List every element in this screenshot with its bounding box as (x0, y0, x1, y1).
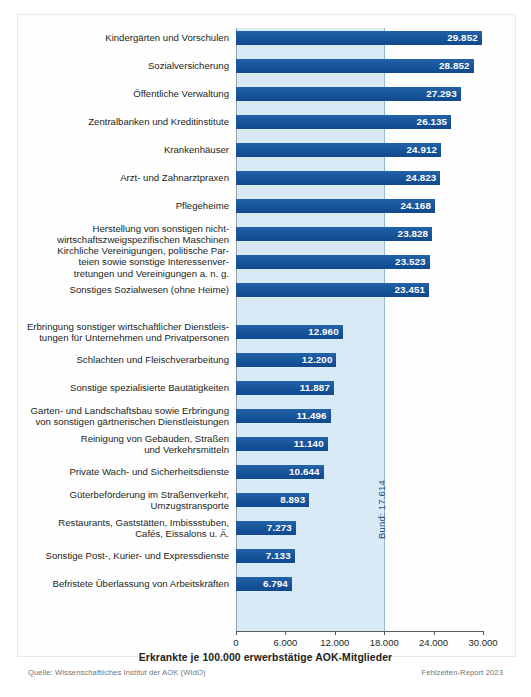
x-tick (483, 631, 484, 635)
bar-value-label: 12.200 (302, 353, 337, 367)
x-tick-label: 6.000 (274, 637, 298, 648)
x-tick (285, 631, 286, 635)
category-label: Zentralbanken und Kreditinstitute (14, 116, 229, 127)
category-label: Herstellung von sonstigen nicht- wirtsch… (14, 223, 229, 246)
category-label: Sozialversicherung (14, 60, 229, 71)
bar-value-label: 29.852 (447, 31, 482, 45)
category-label: Sonstiges Sozialwesen (ohne Heime) (14, 284, 229, 295)
x-tick-label: 30.000 (468, 637, 497, 648)
chart-page: Bund: 17.614 29.852Kindergärten und Vors… (0, 0, 531, 697)
category-label: Kirchliche Vereinigungen, politische Par… (14, 245, 229, 279)
x-tick-label: 0 (233, 637, 238, 648)
bar-value-label: 28.852 (439, 59, 474, 73)
x-tick (384, 631, 385, 635)
bar (236, 31, 482, 45)
report-note: Fehlzeiten-Report 2023 (421, 668, 503, 677)
category-label: Restaurants, Gaststätten, Imbissstuben, … (14, 517, 229, 540)
category-label: Sonstige Post-, Kurier- und Expressdiens… (14, 550, 229, 561)
x-axis-title: Erkrankte je 100.000 erwerbstätige AOK-M… (0, 652, 531, 663)
bar-value-label: 6.794 (263, 577, 292, 591)
category-label: Erbringung sonstiger wirtschaftlicher Di… (14, 321, 229, 344)
bar-value-label: 10.644 (289, 465, 324, 479)
bar-value-label: 7.133 (266, 549, 295, 563)
category-label: Schlachten und Fleischverarbeitung (14, 354, 229, 365)
bar-value-label: 23.523 (395, 255, 430, 269)
x-tick-label: 18.000 (370, 637, 399, 648)
bar-value-label: 7.273 (267, 521, 296, 535)
bar-value-label: 23.828 (398, 227, 433, 241)
bar-value-label: 24.168 (400, 199, 435, 213)
category-label: Sonstige spezialisierte Bautätigkeiten (14, 382, 229, 393)
bar-value-label: 23.451 (395, 283, 430, 297)
x-tick (335, 631, 336, 635)
bar-value-label: 27.293 (426, 87, 461, 101)
bar-value-label: 11.887 (300, 381, 334, 395)
bar-value-label: 24.912 (407, 143, 442, 157)
category-label: Pflegeheime (14, 200, 229, 211)
bar-value-label: 11.496 (297, 409, 331, 423)
bar-value-label: 24.823 (406, 171, 441, 185)
category-label: Reinigung von Gebäuden, Straßen und Verk… (14, 433, 229, 456)
bar-value-label: 26.135 (417, 115, 452, 129)
category-label: Öffentliche Verwaltung (14, 88, 229, 99)
x-tick-label: 24.000 (419, 637, 448, 648)
x-tick (434, 631, 435, 635)
x-tick (236, 631, 237, 635)
category-label: Private Wach- und Sicherheitsdienste (14, 466, 229, 477)
x-axis-line (236, 631, 484, 632)
category-label: Güterbeförderung im Straßenverkehr, Umzu… (14, 489, 229, 512)
category-label: Befristete Überlassung von Arbeitskräfte… (14, 578, 229, 589)
category-label: Arzt- und Zahnarztpraxen (14, 172, 229, 183)
category-label: Krankenhäuser (14, 144, 229, 155)
x-tick-label: 12.000 (320, 637, 349, 648)
bar-value-label: 12.960 (308, 325, 343, 339)
source-note: Quelle: Wissenschaftliches Institut der … (28, 668, 206, 677)
bar (236, 59, 474, 73)
bar-chart: Bund: 17.614 29.852Kindergärten und Vors… (0, 0, 531, 697)
bar-value-label: 8.893 (280, 493, 309, 507)
bar-value-label: 11.140 (294, 437, 328, 451)
category-label: Kindergärten und Vorschulen (14, 32, 229, 43)
category-label: Garten- und Landschaftsbau sowie Erbring… (14, 405, 229, 428)
bund-reference-label: Bund: 17.614 (376, 480, 387, 539)
